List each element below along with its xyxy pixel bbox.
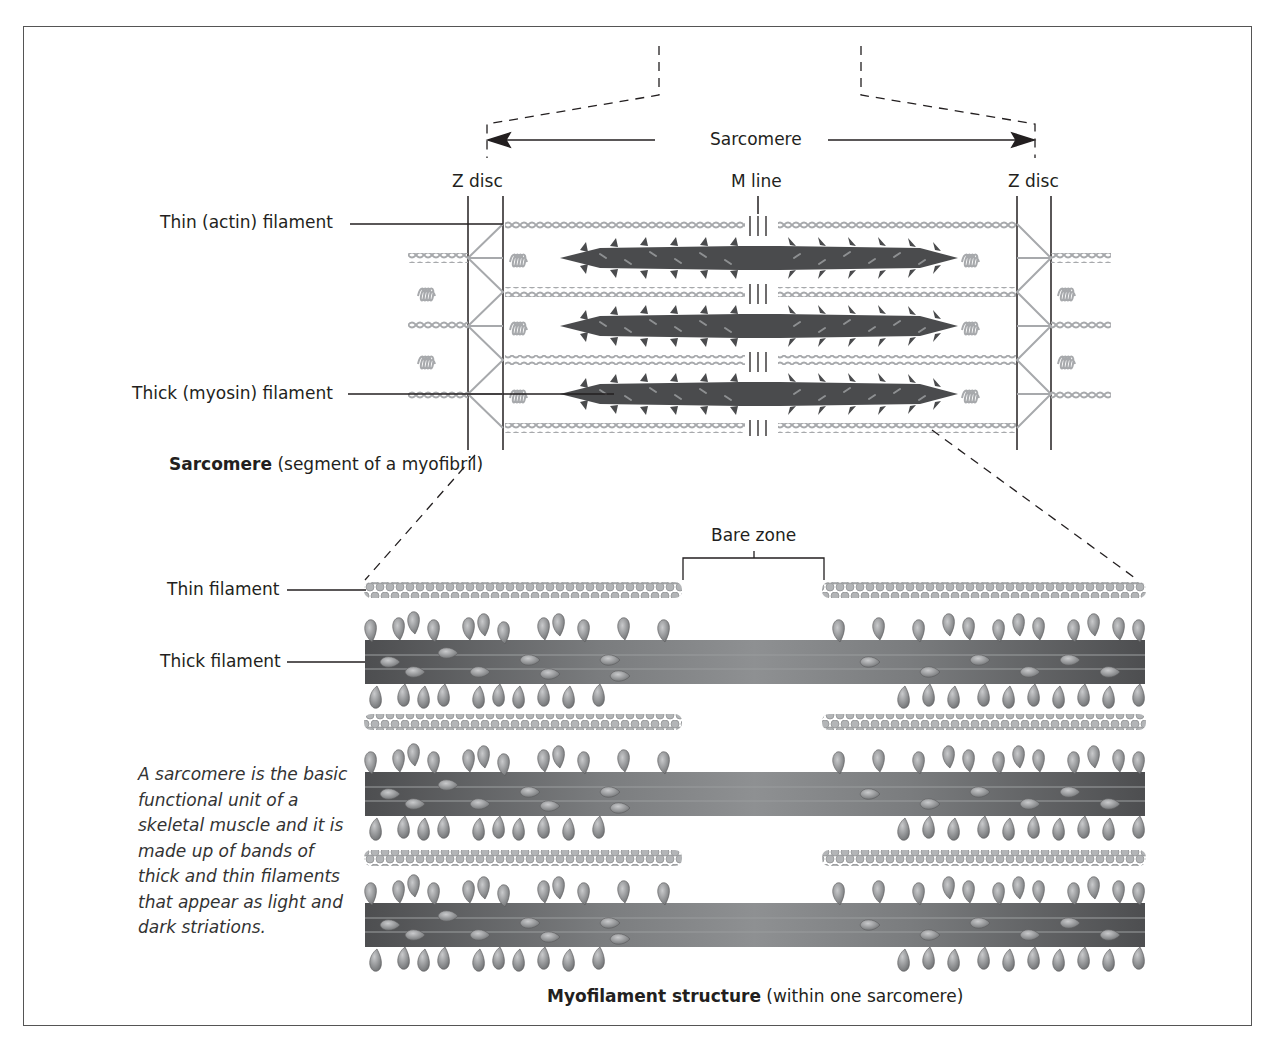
thin-filament-label: Thin filament: [167, 579, 279, 599]
description-note: A sarcomere is the basic functional unit…: [138, 762, 348, 941]
sarcomere-caption-rest: (segment of a myofibril): [272, 454, 483, 474]
thick-filaments-bottom: [365, 640, 1145, 947]
m-line-label: M line: [731, 171, 782, 191]
sarcomere-caption: Sarcomere (segment of a myofibril): [169, 454, 483, 474]
z-disc-right-label: Z disc: [1008, 171, 1059, 191]
sarcomere-caption-bold: Sarcomere: [169, 454, 272, 474]
thick-filament-label: Thick filament: [160, 651, 281, 671]
myosin-filaments-top: [560, 246, 958, 406]
myofilament-caption-bold: Myofilament structure: [547, 986, 761, 1006]
myofilament-caption: Myofilament structure (within one sarcom…: [547, 986, 963, 1006]
bare-zone-label: Bare zone: [711, 525, 796, 545]
thin-actin-label: Thin (actin) filament: [160, 212, 333, 232]
z-disc-left-label: Z disc: [452, 171, 503, 191]
bare-zone-bracket: [683, 551, 824, 580]
myofilament-caption-rest: (within one sarcomere): [761, 986, 963, 1006]
sarcomere-span-label: Sarcomere: [710, 129, 802, 149]
thick-myosin-label: Thick (myosin) filament: [132, 383, 333, 403]
